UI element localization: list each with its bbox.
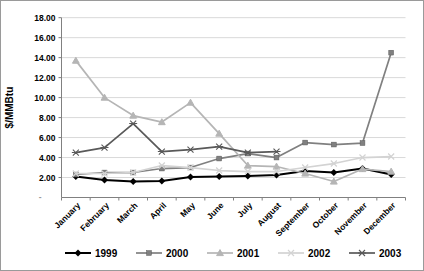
x-category-label: April (147, 200, 168, 221)
x-category-label: August (255, 200, 283, 228)
x-category-label: March (115, 200, 140, 225)
y-tick-label: 14.00 (34, 53, 56, 63)
legend-label-2000: 2000 (166, 248, 189, 259)
marker-diamond (158, 178, 165, 185)
series-line-2001 (76, 61, 391, 182)
y-axis-title: $/MMBtu (4, 87, 15, 129)
marker-asterisk (215, 144, 223, 150)
marker-triangle (130, 112, 137, 118)
marker-diamond (75, 250, 82, 257)
y-tick-label: 16.00 (34, 33, 56, 43)
marker-square (217, 156, 222, 161)
marker-asterisk (358, 250, 366, 256)
marker-asterisk (158, 149, 166, 155)
x-category-label: June (204, 200, 225, 221)
y-tick-label: 18.00 (34, 13, 56, 23)
legend-label-2003: 2003 (379, 248, 402, 259)
y-tick-label: 10.00 (34, 93, 56, 103)
marker-triangle (187, 99, 194, 105)
marker-diamond (187, 174, 194, 181)
y-tick-label: 4.00 (39, 153, 56, 163)
y-tick-label: 2.00 (39, 173, 56, 183)
marker-square (360, 141, 365, 146)
y-tick-label: 8.00 (39, 113, 56, 123)
legend-label-1999: 1999 (95, 248, 118, 259)
y-tick-label: 6.00 (39, 133, 56, 143)
y-zero-label: - (39, 192, 42, 202)
x-category-label: May (178, 200, 197, 219)
chart-container: 2.004.006.008.0010.0012.0014.0016.0018.0… (0, 0, 424, 271)
marker-diamond (330, 169, 337, 176)
marker-asterisk (187, 147, 195, 153)
marker-asterisk (101, 145, 109, 151)
marker-asterisk (129, 121, 137, 127)
marker-diamond (130, 178, 137, 185)
marker-square (147, 251, 152, 256)
marker-asterisk (72, 150, 80, 156)
x-category-label: February (78, 200, 111, 233)
marker-square (303, 140, 308, 145)
legend-label-2001: 2001 (237, 248, 260, 259)
legend-label-2002: 2002 (308, 248, 331, 259)
price-line-chart: 2.004.006.008.0010.0012.0014.0016.0018.0… (1, 1, 423, 270)
marker-square (274, 155, 279, 160)
marker-diamond (216, 173, 223, 180)
marker-square (389, 50, 394, 55)
y-tick-label: 12.00 (34, 73, 56, 83)
marker-asterisk (273, 149, 281, 155)
x-category-label: December (361, 200, 398, 237)
marker-square (331, 142, 336, 147)
series-line-2000 (76, 53, 391, 175)
x-category-label: July (235, 200, 254, 219)
